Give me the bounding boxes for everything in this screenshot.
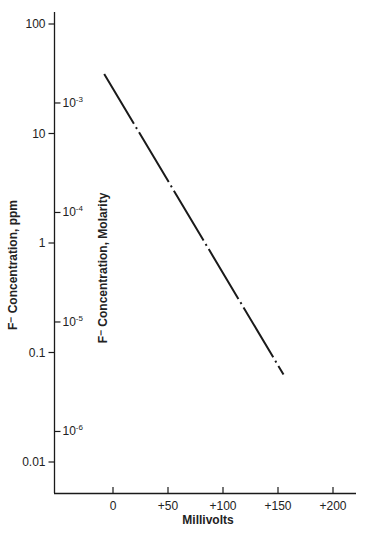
y-axis-title-molarity: F⁻ Concentration, Molarity	[96, 192, 110, 343]
y-tick-label: 0.01	[22, 455, 46, 469]
molarity-tick-label: 10-3	[63, 95, 84, 110]
y-ticks-right: 10-310-410-510-6	[55, 95, 84, 439]
x-tick-label: +50	[158, 499, 179, 513]
response-line	[104, 74, 283, 375]
x-axis-title: Millivolts	[182, 513, 234, 527]
y-ticks-left: 1001010.10.01	[22, 17, 54, 469]
y-tick-label: 1	[39, 236, 46, 250]
calibration-chart: 1001010.10.01 10-310-410-510-6 0+50+100+…	[0, 0, 365, 533]
molarity-tick-label: 10-4	[63, 204, 84, 219]
y-tick-label: 100	[25, 17, 45, 31]
y-tick-label: 10	[32, 127, 46, 141]
x-tick-label: +100	[209, 499, 236, 513]
molarity-tick-label: 10-6	[63, 423, 84, 438]
x-ticks: 0+50+100+150+200	[110, 487, 347, 513]
data-series	[104, 74, 283, 375]
x-tick-label: +150	[264, 499, 291, 513]
x-tick-label: +200	[319, 499, 346, 513]
x-tick-label: 0	[110, 499, 117, 513]
molarity-tick-label: 10-5	[63, 314, 84, 329]
y-axis-title-ppm: F⁻ Concentration, ppm	[6, 200, 20, 330]
y-tick-label: 0.1	[29, 346, 46, 360]
